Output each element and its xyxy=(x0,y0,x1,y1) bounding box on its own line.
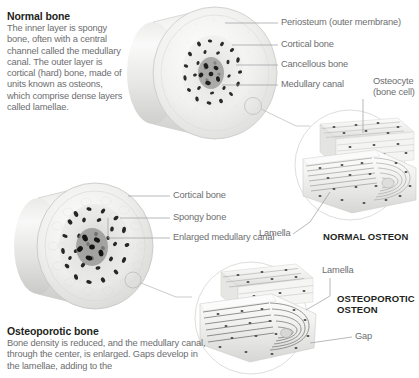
osteoporotic-bone-body: Bone density is reduced, and the medulla… xyxy=(7,338,207,372)
normal-bone-cylinder xyxy=(127,7,277,139)
label-cortical-bone-bottom: Cortical bone xyxy=(173,190,226,201)
label-spongy-bone: Spongy bone xyxy=(173,212,226,223)
normal-bone-text-block: Normal bone The inner layer is spongy bo… xyxy=(7,10,125,113)
label-cortical-bone-top: Cortical bone xyxy=(281,39,334,50)
label-periosteum: Periosteum (outer membrane) xyxy=(281,17,401,28)
osteoporotic-bone-text-block: Osteoporotic bone Bone density is reduce… xyxy=(7,325,207,372)
normal-bone-body: The inner layer is spongy bone, often wi… xyxy=(7,23,125,113)
label-cancellous-bone: Cancellous bone xyxy=(281,59,348,70)
label-osteocyte: Osteocyte (bone cell) xyxy=(373,76,419,98)
illustration-stage: Normal bone The inner layer is spongy bo… xyxy=(0,0,419,378)
heading-osteoporotic-osteon: OSTEOPOROTIC OSTEON xyxy=(337,293,415,315)
osteoporotic-bone-heading: Osteoporotic bone xyxy=(7,325,207,337)
normal-osteon-magnification xyxy=(261,99,416,234)
label-medullary-canal: Medullary canal xyxy=(281,79,344,90)
osteon-lower-body-osteoporotic xyxy=(200,294,316,362)
label-lamella-normal: Lamella xyxy=(259,228,291,239)
heading-normal-osteon: NORMAL OSTEON xyxy=(323,231,409,242)
label-lamella-osteoporotic: Lamella xyxy=(322,265,354,276)
label-gap: Gap xyxy=(355,331,372,342)
normal-bone-heading: Normal bone xyxy=(7,10,125,22)
osteoporotic-bone-cylinder xyxy=(14,183,153,309)
leader-gap xyxy=(310,337,352,343)
